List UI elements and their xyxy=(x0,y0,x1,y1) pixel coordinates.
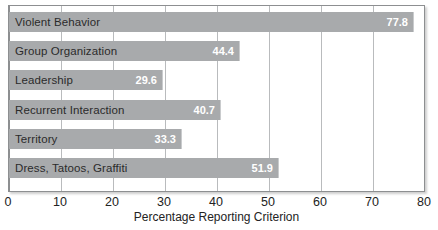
x-tick-label-30: 30 xyxy=(157,195,171,209)
bars-group: Violent Behavior77.8Group Organization44… xyxy=(9,6,424,191)
bar-value-label: 77.8 xyxy=(387,12,408,32)
x-tick-label-0: 0 xyxy=(5,195,12,209)
bar-row: Violent Behavior77.8 xyxy=(9,12,414,32)
bar-row: Group Organization44.4 xyxy=(9,41,240,61)
x-tick-label-40: 40 xyxy=(209,195,223,209)
bar-row: Leadership29.6 xyxy=(9,70,163,90)
bar-value-label: 33.3 xyxy=(155,129,176,149)
x-tick-label-80: 80 xyxy=(417,195,431,209)
bar-row: Dress, Tatoos, Graffiti51.9 xyxy=(9,158,279,178)
x-tick-label-70: 70 xyxy=(365,195,379,209)
bar-value-label: 44.4 xyxy=(213,41,234,61)
bar-category-label: Group Organization xyxy=(15,41,117,61)
bar-value-label: 29.6 xyxy=(136,70,157,90)
bar-value-label: 51.9 xyxy=(252,158,273,178)
plot-area: Violent Behavior77.8Group Organization44… xyxy=(8,5,425,192)
horizontal-bar-chart: Violent Behavior77.8Group Organization44… xyxy=(0,0,438,230)
bar-value-label: 40.7 xyxy=(194,100,215,120)
x-axis-title: Percentage Reporting Criterion xyxy=(8,210,425,224)
bar-category-label: Violent Behavior xyxy=(15,12,100,32)
bar-category-label: Territory xyxy=(15,129,57,149)
bar-category-label: Dress, Tatoos, Graffiti xyxy=(15,158,127,178)
x-tick-label-20: 20 xyxy=(105,195,119,209)
bar-row: Territory33.3 xyxy=(9,129,182,149)
bar-category-label: Leadership xyxy=(15,70,73,90)
x-axis-tick-labels: 01020304050607080 xyxy=(0,195,438,211)
bar-category-label: Recurrent Interaction xyxy=(15,100,125,120)
bar-row: Recurrent Interaction40.7 xyxy=(9,100,221,120)
x-tick-label-10: 10 xyxy=(53,195,67,209)
x-tick-label-60: 60 xyxy=(313,195,327,209)
x-tick-label-50: 50 xyxy=(261,195,275,209)
